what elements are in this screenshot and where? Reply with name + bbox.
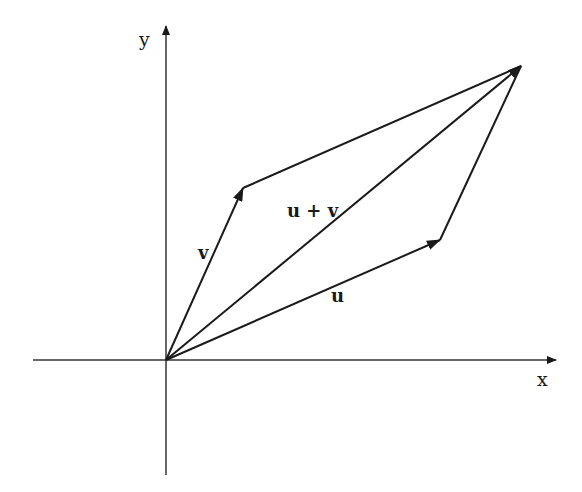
vector-u-plus-v: [166, 66, 521, 360]
vector-v: [166, 188, 243, 360]
vector-u-plus-v-label: u + v: [287, 202, 338, 220]
vector-addition-diagram: y x v u u + v: [0, 0, 582, 492]
diagram-svg: [0, 0, 582, 492]
y-axis-label: y: [139, 30, 150, 49]
edge-v-to-sum: [243, 66, 521, 188]
edge-u-to-sum: [440, 66, 521, 240]
vector-u-label: u: [331, 287, 344, 305]
vector-v-label: v: [198, 244, 208, 262]
x-axis-label: x: [537, 370, 548, 389]
